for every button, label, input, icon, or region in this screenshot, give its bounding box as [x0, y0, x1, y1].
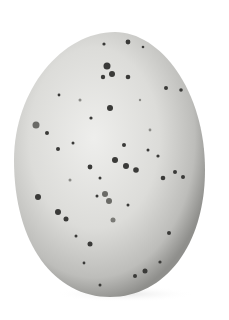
- egg-shell: [14, 32, 205, 297]
- egg-illustration: [0, 0, 229, 320]
- egg-photo: Speckled bird egg: [0, 0, 229, 320]
